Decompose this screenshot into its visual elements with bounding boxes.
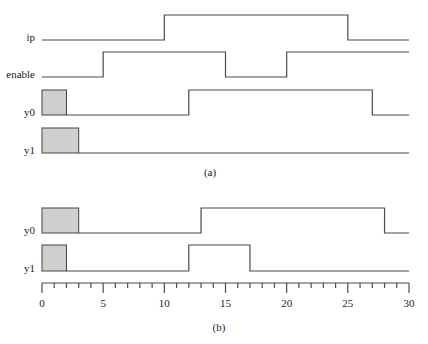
signal-label: y1	[24, 262, 35, 274]
panel-a-caption: (a)	[204, 166, 217, 179]
unknown-state-block	[42, 208, 79, 233]
waveform	[66, 245, 409, 271]
signal-enable: enable	[6, 52, 409, 80]
tick-label: 15	[220, 297, 232, 309]
waveform	[66, 90, 409, 115]
signal-y0: y0	[24, 208, 409, 236]
tick-label: 5	[100, 297, 106, 309]
tick-label: 20	[281, 297, 293, 309]
panel-a: ipenabley0y1	[6, 15, 409, 156]
signal-label: y0	[24, 224, 36, 236]
signal-ip: ip	[26, 15, 409, 43]
tick-label: 30	[404, 297, 416, 309]
unknown-state-block	[42, 245, 66, 271]
signal-label: ip	[26, 31, 35, 43]
panel-b: y0y1	[24, 208, 409, 274]
signal-y1: y1	[24, 245, 409, 274]
waveform	[42, 52, 409, 77]
tick-label: 10	[159, 297, 171, 309]
signal-y0: y0	[24, 90, 409, 118]
time-axis: 051015202530	[39, 283, 415, 309]
unknown-state-block	[42, 128, 79, 153]
waveform	[42, 15, 409, 40]
waveform	[79, 208, 409, 233]
tick-label: 0	[39, 297, 45, 309]
timing-diagram: ipenabley0y1 (a) y0y1 051015202530 (b)	[0, 0, 428, 344]
unknown-state-block	[42, 90, 66, 115]
signal-label: y0	[24, 106, 36, 118]
signal-y1: y1	[24, 128, 409, 156]
signal-label: y1	[24, 144, 35, 156]
tick-label: 25	[342, 297, 354, 309]
signal-label: enable	[6, 68, 35, 80]
panel-b-caption: (b)	[213, 321, 226, 334]
